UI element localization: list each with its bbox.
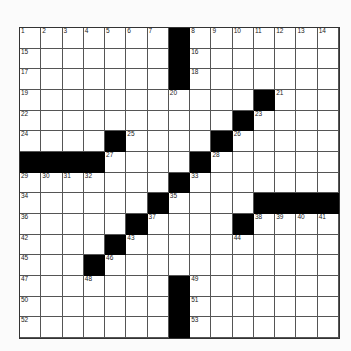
grid-cell[interactable] [233, 90, 254, 111]
grid-cell[interactable] [126, 297, 147, 318]
grid-cell[interactable] [41, 49, 62, 70]
grid-cell[interactable]: 38 [254, 214, 275, 235]
grid-cell[interactable]: 4 [84, 28, 105, 49]
grid-cell[interactable] [296, 235, 317, 256]
grid-cell[interactable]: 9 [211, 28, 232, 49]
grid-cell[interactable] [126, 90, 147, 111]
grid-cell[interactable] [296, 69, 317, 90]
grid-cell[interactable] [63, 131, 84, 152]
grid-cell[interactable] [84, 111, 105, 132]
grid-cell[interactable] [296, 276, 317, 297]
grid-cell[interactable] [126, 69, 147, 90]
grid-cell[interactable] [41, 214, 62, 235]
grid-cell[interactable] [211, 49, 232, 70]
grid-cell[interactable] [211, 111, 232, 132]
grid-cell[interactable] [275, 255, 296, 276]
grid-cell[interactable]: 13 [296, 28, 317, 49]
grid-cell[interactable]: 25 [126, 131, 147, 152]
grid-cell[interactable] [254, 317, 275, 338]
grid-cell[interactable] [105, 317, 126, 338]
grid-cell[interactable] [148, 152, 169, 173]
grid-cell[interactable] [41, 235, 62, 256]
grid-cell[interactable] [275, 317, 296, 338]
grid-cell[interactable] [41, 317, 62, 338]
grid-cell[interactable] [41, 69, 62, 90]
grid-cell[interactable] [190, 111, 211, 132]
grid-cell[interactable] [105, 69, 126, 90]
grid-cell[interactable] [84, 214, 105, 235]
grid-cell[interactable] [296, 173, 317, 194]
grid-cell[interactable] [318, 152, 339, 173]
grid-cell[interactable] [190, 214, 211, 235]
grid-cell[interactable]: 45 [20, 255, 41, 276]
grid-cell[interactable]: 5 [105, 28, 126, 49]
grid-cell[interactable] [84, 297, 105, 318]
grid-cell[interactable] [41, 297, 62, 318]
grid-cell[interactable] [190, 90, 211, 111]
grid-cell[interactable]: 49 [190, 276, 211, 297]
grid-cell[interactable] [41, 131, 62, 152]
grid-cell[interactable] [63, 69, 84, 90]
grid-cell[interactable] [169, 235, 190, 256]
grid-cell[interactable] [148, 173, 169, 194]
grid-cell[interactable]: 37 [148, 214, 169, 235]
grid-cell[interactable] [190, 131, 211, 152]
grid-cell[interactable]: 41 [318, 214, 339, 235]
grid-cell[interactable]: 51 [190, 297, 211, 318]
grid-cell[interactable]: 34 [20, 193, 41, 214]
grid-cell[interactable] [126, 317, 147, 338]
grid-cell[interactable] [63, 49, 84, 70]
grid-cell[interactable] [148, 131, 169, 152]
grid-cell[interactable] [211, 69, 232, 90]
grid-cell[interactable] [126, 276, 147, 297]
grid-cell[interactable] [148, 297, 169, 318]
grid-cell[interactable]: 22 [20, 111, 41, 132]
grid-cell[interactable] [41, 276, 62, 297]
grid-cell[interactable]: 15 [20, 49, 41, 70]
grid-cell[interactable] [318, 317, 339, 338]
grid-cell[interactable] [296, 49, 317, 70]
grid-cell[interactable] [126, 193, 147, 214]
grid-cell[interactable] [126, 49, 147, 70]
grid-cell[interactable] [296, 131, 317, 152]
grid-cell[interactable] [126, 111, 147, 132]
grid-cell[interactable] [233, 193, 254, 214]
grid-cell[interactable] [211, 193, 232, 214]
grid-cell[interactable] [211, 173, 232, 194]
grid-cell[interactable] [275, 173, 296, 194]
grid-cell[interactable] [254, 276, 275, 297]
grid-cell[interactable] [275, 152, 296, 173]
grid-cell[interactable] [254, 69, 275, 90]
grid-cell[interactable] [148, 69, 169, 90]
grid-cell[interactable]: 2 [41, 28, 62, 49]
grid-cell[interactable]: 53 [190, 317, 211, 338]
grid-cell[interactable]: 18 [190, 69, 211, 90]
grid-cell[interactable] [318, 49, 339, 70]
grid-cell[interactable] [275, 111, 296, 132]
grid-cell[interactable] [126, 173, 147, 194]
grid-cell[interactable] [296, 111, 317, 132]
grid-cell[interactable] [63, 276, 84, 297]
grid-cell[interactable] [148, 49, 169, 70]
grid-cell[interactable] [318, 235, 339, 256]
grid-cell[interactable]: 50 [20, 297, 41, 318]
grid-cell[interactable] [126, 152, 147, 173]
grid-cell[interactable]: 44 [233, 235, 254, 256]
grid-cell[interactable] [275, 131, 296, 152]
grid-cell[interactable] [169, 214, 190, 235]
grid-cell[interactable] [318, 255, 339, 276]
grid-cell[interactable] [63, 255, 84, 276]
grid-cell[interactable]: 52 [20, 317, 41, 338]
grid-cell[interactable]: 11 [254, 28, 275, 49]
grid-cell[interactable] [211, 297, 232, 318]
grid-cell[interactable]: 3 [63, 28, 84, 49]
grid-cell[interactable] [211, 235, 232, 256]
grid-cell[interactable]: 21 [275, 90, 296, 111]
grid-cell[interactable]: 12 [275, 28, 296, 49]
grid-cell[interactable]: 27 [105, 152, 126, 173]
grid-cell[interactable] [233, 173, 254, 194]
grid-cell[interactable] [233, 49, 254, 70]
grid-cell[interactable] [296, 152, 317, 173]
grid-cell[interactable] [105, 214, 126, 235]
grid-cell[interactable]: 23 [254, 111, 275, 132]
